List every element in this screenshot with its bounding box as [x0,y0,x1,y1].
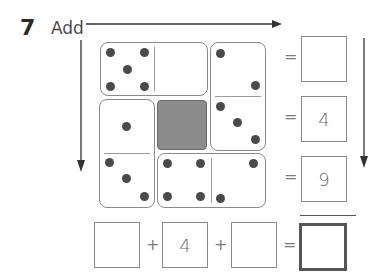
left-down-arrow-icon [75,38,87,174]
domino-dot [251,135,260,144]
row-sum-box-1[interactable] [301,36,347,82]
domino-dot [216,102,225,111]
domino-dot [249,159,258,168]
domino-dot [122,122,131,131]
question-number: 7 [20,15,35,40]
domino-dot [140,48,149,57]
domino-bottom-horizontal [157,153,266,208]
plus-sign: + [146,235,159,254]
column-sum-box-2[interactable]: 4 [162,222,208,268]
equals-sign: = [283,235,296,254]
domino-dot [123,65,132,74]
domino-dot [140,82,149,91]
domino-dot [106,82,115,91]
domino-mid-left-vertical [99,99,155,208]
equals-sign: = [284,47,297,66]
row-sum-box-3[interactable]: 9 [301,156,347,202]
total-separator-line [300,215,356,216]
right-arrow-icon [84,18,284,30]
domino-divider [104,153,150,154]
domino-dot [163,192,172,201]
plus-sign: + [214,235,227,254]
column-sum-box-1[interactable] [94,222,140,268]
shaded-square [157,100,207,150]
domino-dot [196,192,205,201]
domino-dot [216,194,225,203]
domino-dot [106,48,115,57]
domino-dot [140,192,149,201]
domino-dot [233,118,242,127]
grand-total-box[interactable] [299,223,347,271]
column-sum-box-3[interactable] [231,222,277,268]
domino-dot [196,159,205,168]
domino-dot [122,174,131,183]
domino-divider [215,96,261,97]
right-down-arrow-icon [358,36,370,170]
equals-sign: = [284,107,297,126]
row-sum-box-2[interactable]: 4 [301,96,347,142]
domino-dot [216,49,225,58]
domino-dot [105,158,114,167]
domino-divider [211,158,212,203]
question-instruction: Add [51,18,84,38]
domino-divider [154,47,155,91]
domino-top-right-vertical [210,42,266,151]
domino-dot [163,159,172,168]
domino-top-horizontal [100,42,208,96]
domino-dot [251,81,260,90]
equals-sign: = [284,167,297,186]
